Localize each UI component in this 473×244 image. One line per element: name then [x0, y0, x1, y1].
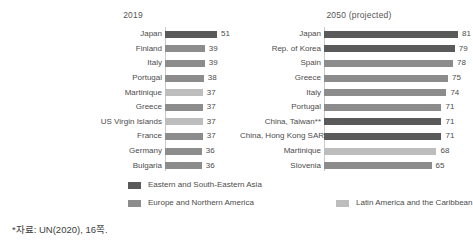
source-note: *자료: UN(2020), 16쪽. — [12, 222, 108, 236]
bar-category-label: Portugal — [0, 74, 165, 82]
bar-row: Italy74 — [240, 85, 472, 100]
bar-category-label: Finland — [0, 45, 165, 53]
bar-row: Slovenia65 — [240, 158, 472, 173]
bar-category-label: Bulgaria — [0, 162, 165, 170]
bar-value-label: 75 — [448, 74, 461, 82]
bar — [324, 31, 458, 38]
bar-value-label: 37 — [203, 89, 216, 97]
bar-track: 71 — [324, 129, 472, 144]
bar-value-label: 37 — [203, 118, 216, 126]
chart-panel-2019: 2019 Japan51Finland39Italy39Portugal38Ma… — [0, 0, 240, 178]
bar-track: 75 — [324, 71, 472, 86]
bar — [324, 133, 441, 140]
bar-row: Italy39 — [0, 56, 240, 71]
bar-track: 71 — [324, 100, 472, 115]
bar-category-label: China, Hong Kong SAR — [240, 132, 324, 140]
bar — [165, 60, 205, 67]
bar — [165, 148, 202, 155]
bar-track: 36 — [165, 144, 240, 159]
legend-label: Eastern and South-Eastern Asia — [148, 181, 262, 189]
bar-track: 79 — [324, 42, 472, 57]
plot-area-2019: Japan51Finland39Italy39Portugal38Martini… — [0, 27, 240, 173]
bar-value-label: 39 — [205, 59, 218, 67]
bar-row: Martinique68 — [240, 144, 472, 159]
bar-row: US Virgin Islands37 — [0, 115, 240, 130]
bar-category-label: Rep. of Korea — [240, 45, 324, 53]
bar-row: Finland39 — [0, 42, 240, 57]
bar-category-label: Martinique — [240, 147, 324, 155]
bar-row: Portugal71 — [240, 100, 472, 115]
bar-row: Rep. of Korea79 — [240, 42, 472, 57]
bar-category-label: Greece — [240, 74, 324, 82]
bar — [165, 104, 203, 111]
bar-value-label: 51 — [217, 30, 230, 38]
bar-value-label: 65 — [432, 162, 445, 170]
bar — [324, 148, 436, 155]
bar — [324, 45, 455, 52]
legend-label: Europe and Northern America — [148, 199, 254, 207]
bar-category-label: Portugal — [240, 103, 324, 111]
bar — [165, 162, 202, 169]
bar-track: 74 — [324, 85, 472, 100]
bar-track: 37 — [165, 85, 240, 100]
bar-track: 81 — [324, 27, 472, 42]
bar-category-label: Slovenia — [240, 162, 324, 170]
bar-row: France37 — [0, 129, 240, 144]
bar — [165, 31, 217, 38]
bar-rows-2019: Japan51Finland39Italy39Portugal38Martini… — [0, 27, 240, 173]
bar-track: 78 — [324, 56, 472, 71]
bar-category-label: Germany — [0, 147, 165, 155]
legend-label: Latin America and the Caribbean — [356, 199, 473, 207]
bar-row: Portugal38 — [0, 71, 240, 86]
panel-title-2019: 2019 — [0, 10, 240, 20]
bar-row: Spain78 — [240, 56, 472, 71]
bar-track: 39 — [165, 42, 240, 57]
bar-value-label: 71 — [441, 118, 454, 126]
bar-category-label: France — [0, 132, 165, 140]
bar-category-label: China, Taiwan** — [240, 118, 324, 126]
bar-track: 51 — [165, 27, 240, 42]
plot-area-2050: Japan81Rep. of Korea79Spain78Greece75Ita… — [240, 27, 472, 173]
legend-swatch-icon — [128, 182, 141, 189]
bar — [324, 89, 446, 96]
bar-category-label: Spain — [240, 59, 324, 67]
legend-item[interactable]: Europe and Northern America — [128, 199, 254, 207]
bar-row: Greece75 — [240, 71, 472, 86]
bar-track: 65 — [324, 158, 472, 173]
bar-value-label: 78 — [453, 59, 466, 67]
bar — [165, 133, 203, 140]
bar-category-label: Martinique — [0, 89, 165, 97]
bar-row: China, Hong Kong SAR71 — [240, 129, 472, 144]
bar-row: Martinique37 — [0, 85, 240, 100]
bar-category-label: Italy — [240, 89, 324, 97]
legend-item[interactable]: Eastern and South-Eastern Asia — [128, 181, 262, 189]
bar-row: Germany36 — [0, 144, 240, 159]
bar-track: 38 — [165, 71, 240, 86]
legend-item[interactable]: Latin America and the Caribbean — [336, 199, 473, 207]
bar — [324, 118, 441, 125]
bar-value-label: 37 — [203, 103, 216, 111]
bar-track: 37 — [165, 115, 240, 130]
bar — [165, 75, 204, 82]
chart-legend: Eastern and South-Eastern AsiaEurope and… — [0, 178, 472, 218]
bar-value-label: 68 — [436, 147, 449, 155]
bar — [165, 89, 203, 96]
bar-track: 71 — [324, 115, 472, 130]
bar-row: Greece37 — [0, 100, 240, 115]
bar-row: Bulgaria36 — [0, 158, 240, 173]
bar-value-label: 38 — [204, 74, 217, 82]
bar — [324, 104, 441, 111]
bar-value-label: 79 — [455, 45, 468, 53]
bar-row: Japan81 — [240, 27, 472, 42]
bar-track: 68 — [324, 144, 472, 159]
bar-category-label: US Virgin Islands — [0, 118, 165, 126]
bar-value-label: 81 — [458, 30, 471, 38]
panel-title-2050: 2050 (projected) — [240, 10, 472, 20]
legend-swatch-icon — [336, 200, 349, 207]
bar-rows-2050: Japan81Rep. of Korea79Spain78Greece75Ita… — [240, 27, 472, 173]
bar-value-label: 74 — [446, 89, 459, 97]
chart-panel-2050: 2050 (projected) Japan81Rep. of Korea79S… — [240, 0, 472, 178]
bar-value-label: 71 — [441, 132, 454, 140]
bar-value-label: 36 — [202, 147, 215, 155]
